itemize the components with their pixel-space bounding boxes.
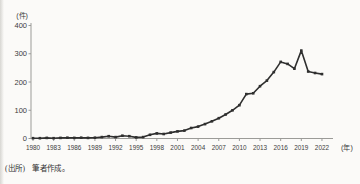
data-point	[128, 135, 131, 138]
data-point	[190, 127, 193, 130]
x-tick-label: 1980	[26, 144, 41, 151]
data-point	[307, 70, 310, 73]
data-point	[39, 137, 42, 140]
x-tick-label: 1986	[67, 144, 82, 151]
data-point	[52, 137, 55, 140]
data-point	[101, 136, 104, 139]
data-point	[94, 136, 97, 139]
y-tick-label: 200	[14, 78, 27, 87]
data-point	[266, 79, 269, 82]
x-tick-label: 2004	[191, 144, 206, 151]
x-unit-label: (年)	[341, 143, 353, 152]
data-point	[169, 131, 172, 134]
x-tick-label: 1995	[129, 144, 144, 151]
data-point	[162, 133, 165, 136]
x-tick-label: 2001	[170, 144, 185, 151]
data-point	[286, 63, 289, 66]
x-tick-label: 2022	[315, 144, 330, 151]
data-point	[66, 136, 69, 139]
x-tick-label: 1983	[47, 144, 62, 151]
y-tick-label: 0	[23, 134, 27, 143]
data-point	[279, 61, 282, 64]
x-tick-label: 2010	[232, 144, 247, 151]
x-tick-label: 2016	[274, 144, 289, 151]
x-tick-label: 1989	[88, 144, 103, 151]
data-point	[211, 120, 214, 123]
data-point	[204, 123, 207, 126]
data-point	[142, 136, 145, 139]
data-point	[32, 137, 35, 140]
data-point	[121, 134, 124, 137]
data-point	[87, 137, 90, 140]
data-point	[218, 117, 221, 120]
data-point	[314, 72, 317, 75]
source-note: (出所) 筆者作成。	[5, 162, 69, 173]
data-point	[231, 109, 234, 112]
data-point	[135, 136, 138, 139]
data-point	[114, 136, 117, 139]
x-tick-label: 1998	[150, 144, 165, 151]
data-point	[59, 137, 62, 140]
data-point	[107, 135, 110, 138]
data-point	[259, 85, 262, 88]
data-point	[252, 92, 255, 95]
y-tick-label: 400	[14, 21, 27, 30]
x-tick-label: 2019	[294, 144, 309, 151]
data-point	[176, 130, 179, 133]
scanned-page: ■■■■ ■■■■■■■■■■■■■■（1980～2022年） 01002003…	[0, 0, 360, 184]
y-tick-label: 300	[14, 49, 27, 58]
data-point	[224, 113, 227, 116]
y-unit-label: (件)	[16, 11, 28, 20]
data-point	[238, 104, 241, 107]
data-point	[73, 137, 76, 140]
y-tick-label: 100	[14, 106, 27, 115]
data-point	[197, 125, 200, 128]
data-line	[33, 51, 322, 139]
data-point	[149, 134, 152, 137]
data-point	[321, 73, 324, 76]
x-tick-label: 2007	[212, 144, 227, 151]
data-point	[156, 132, 159, 135]
chart-area: 0100200300400198019831986198919921995199…	[0, 6, 360, 166]
data-point	[80, 136, 83, 139]
data-point	[46, 137, 49, 140]
data-point	[293, 67, 296, 70]
line-chart: 0100200300400198019831986198919921995199…	[0, 6, 360, 166]
clipped-figure-title: ■■■■ ■■■■■■■■■■■■■■（1980～2022年）	[45, 0, 325, 5]
data-point	[183, 129, 186, 132]
x-tick-label: 1992	[108, 144, 123, 151]
data-point	[245, 93, 248, 96]
data-point	[273, 71, 276, 74]
data-point	[300, 49, 303, 52]
x-tick-label: 2013	[253, 144, 268, 151]
